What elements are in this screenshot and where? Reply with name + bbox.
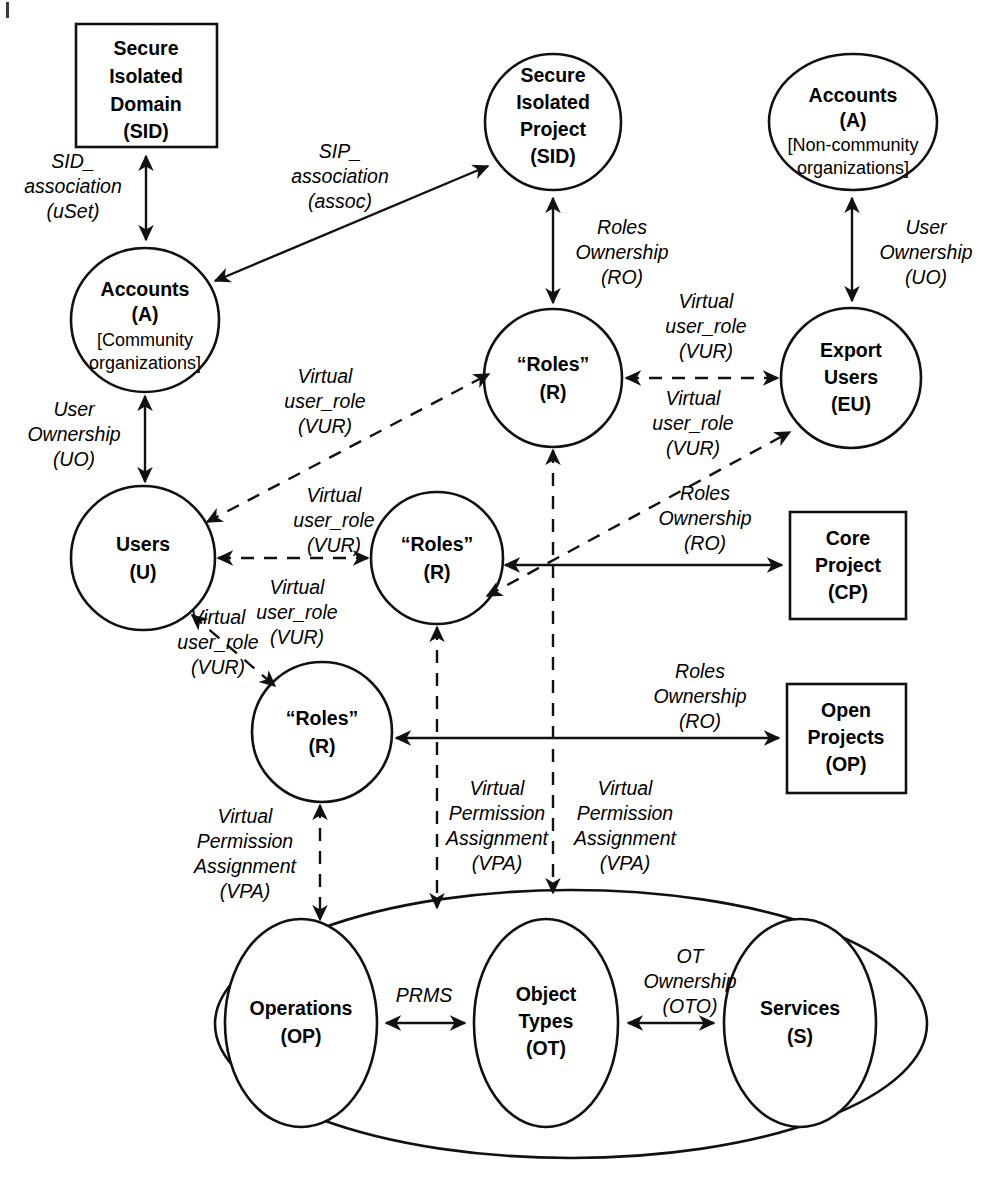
svg-text:[Community: [Community: [97, 330, 193, 350]
svg-text:(EU): (EU): [831, 393, 871, 415]
svg-text:Assignment: Assignment: [445, 827, 549, 849]
svg-text:(SID): (SID): [530, 145, 576, 167]
svg-text:(OTO): (OTO): [663, 995, 718, 1017]
svg-text:(R): (R): [539, 381, 566, 403]
svg-text:Operations: Operations: [250, 997, 353, 1019]
svg-text:Virtual: Virtual: [218, 805, 274, 827]
svg-text:“Roles”: “Roles”: [286, 707, 359, 729]
svg-text:(VUR): (VUR): [666, 437, 720, 459]
svg-text:(UO): (UO): [53, 448, 95, 470]
svg-text:“Roles”: “Roles”: [401, 533, 474, 555]
svg-text:Ownership: Ownership: [658, 507, 751, 529]
svg-text:Roles: Roles: [680, 482, 730, 504]
node-roles-bottom[interactable]: [252, 662, 392, 802]
svg-text:Project: Project: [520, 118, 587, 140]
svg-text:(U): (U): [129, 561, 156, 583]
svg-text:(A): (A): [131, 303, 158, 325]
svg-text:(OP): (OP): [825, 753, 866, 775]
svg-text:Ownership: Ownership: [653, 685, 746, 707]
svg-text:Roles: Roles: [597, 216, 647, 238]
svg-text:(R): (R): [308, 735, 335, 757]
svg-text:Secure: Secure: [520, 64, 585, 86]
svg-text:(OP): (OP): [280, 1025, 321, 1047]
edge-label-vpa-rolesmid: Virtual Permission Assignment (VPA): [445, 777, 549, 874]
svg-text:Domain: Domain: [110, 93, 182, 115]
svg-text:Ownership: Ownership: [879, 241, 972, 263]
svg-text:Virtual: Virtual: [307, 484, 363, 506]
svg-text:Accounts: Accounts: [101, 278, 190, 300]
svg-text:Users: Users: [116, 533, 170, 555]
svg-text:(VPA): (VPA): [472, 852, 523, 874]
svg-text:user_role: user_role: [293, 509, 374, 531]
svg-text:Project: Project: [815, 554, 882, 576]
svg-text:(UO): (UO): [905, 266, 947, 288]
diagram-svg: Secure Isolated Domain (SID) Secure Isol…: [0, 0, 982, 1183]
edge-label-user-ownership-non-community: User Ownership (UO): [879, 216, 972, 288]
edge-label-vur-users-rolesbottom: Virtual user_role (VUR): [177, 606, 258, 678]
svg-text:Export: Export: [820, 339, 882, 361]
node-roles-mid[interactable]: [371, 492, 503, 624]
svg-text:Object: Object: [516, 983, 577, 1005]
svg-text:Virtual: Virtual: [270, 576, 326, 598]
svg-text:Ownership: Ownership: [575, 241, 668, 263]
svg-text:Virtual: Virtual: [598, 777, 654, 799]
svg-text:PRMS: PRMS: [396, 984, 452, 1006]
svg-text:User: User: [905, 216, 948, 238]
svg-text:Permission: Permission: [577, 802, 673, 824]
svg-text:Types: Types: [519, 1010, 574, 1032]
svg-text:(assoc): (assoc): [308, 190, 372, 212]
svg-text:(VUR): (VUR): [298, 415, 352, 437]
svg-text:user_role: user_role: [652, 412, 733, 434]
svg-text:Projects: Projects: [808, 726, 885, 748]
node-operations[interactable]: [225, 919, 377, 1127]
edge-label-vpa-rolesbottom: Virtual Permission Assignment (VPA): [193, 805, 297, 902]
svg-text:Permission: Permission: [197, 830, 293, 852]
svg-text:(SID): (SID): [123, 120, 169, 142]
svg-text:(RO): (RO): [601, 266, 643, 288]
svg-text:Assignment: Assignment: [573, 827, 677, 849]
svg-text:(VUR): (VUR): [679, 340, 733, 362]
svg-text:Roles: Roles: [675, 660, 725, 682]
edge-label-vur-users-rolestop: Virtual user_role (VUR): [284, 365, 365, 437]
edge-label-prms: PRMS: [396, 984, 452, 1006]
svg-text:(A): (A): [839, 109, 866, 131]
svg-text:(CP): (CP): [828, 581, 868, 603]
svg-text:Isolated: Isolated: [516, 91, 590, 113]
node-roles-top[interactable]: [484, 309, 622, 447]
svg-text:Virtual: Virtual: [298, 365, 354, 387]
svg-text:Virtual: Virtual: [679, 290, 735, 312]
edge-label-vur-rolesmid-users: Virtual user_role (VUR): [293, 484, 374, 556]
svg-text:(VPA): (VPA): [600, 852, 651, 874]
svg-text:“Roles”: “Roles”: [517, 353, 590, 375]
diagram-canvas: Secure Isolated Domain (SID) Secure Isol…: [0, 0, 982, 1183]
edge-label-vur-users-rolesmid: Virtual user_role (VUR): [256, 576, 337, 648]
edge-label-roles-ownership-sip: Roles Ownership (RO): [575, 216, 668, 288]
svg-text:Secure: Secure: [113, 37, 178, 59]
svg-text:[Non-community: [Non-community: [787, 135, 918, 155]
svg-text:Permission: Permission: [449, 802, 545, 824]
edge-label-roles-ownership-open-projects: Roles Ownership (RO): [653, 660, 746, 732]
svg-text:association: association: [291, 165, 389, 187]
edge-label-roles-ownership-core-project: Roles Ownership (RO): [658, 482, 751, 554]
svg-text:Ownership: Ownership: [643, 970, 736, 992]
edge-label-sip-association: SIP_ association (assoc): [291, 140, 389, 212]
edge-label-vur-rolestop-exportusers: Virtual user_role (VUR): [665, 290, 746, 362]
svg-text:(OT): (OT): [526, 1037, 566, 1059]
svg-text:user_role: user_role: [284, 390, 365, 412]
svg-text:OT: OT: [676, 945, 705, 967]
edge-label-sid-association: SID_ association (uSet): [24, 150, 122, 222]
svg-text:user_role: user_role: [665, 315, 746, 337]
svg-text:organizations]: organizations]: [797, 158, 909, 178]
svg-text:user_role: user_role: [177, 631, 258, 653]
svg-text:Services: Services: [760, 997, 840, 1019]
svg-text:(S): (S): [787, 1025, 813, 1047]
svg-text:(VUR): (VUR): [270, 626, 324, 648]
svg-text:Accounts: Accounts: [809, 84, 898, 106]
svg-text:Virtual: Virtual: [470, 777, 526, 799]
edge-label-vpa-rolestop: Virtual Permission Assignment (VPA): [573, 777, 677, 874]
svg-text:User: User: [53, 398, 96, 420]
svg-text:Core: Core: [826, 527, 871, 549]
svg-text:association: association: [24, 175, 122, 197]
svg-text:Assignment: Assignment: [193, 855, 297, 877]
node-services[interactable]: [724, 919, 876, 1127]
